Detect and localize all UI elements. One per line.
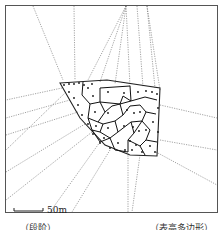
voronoi-diagram	[0, 0, 221, 230]
outer-rays	[6, 6, 217, 212]
data-points	[63, 82, 159, 153]
scale-label: 50m	[47, 205, 67, 215]
caption-right: （表高多边形）	[150, 221, 213, 230]
caption-left: （段阶）	[20, 221, 56, 230]
convex-hull	[60, 80, 160, 156]
voronoi-cells	[82, 82, 157, 155]
scale-bar	[14, 208, 43, 211]
